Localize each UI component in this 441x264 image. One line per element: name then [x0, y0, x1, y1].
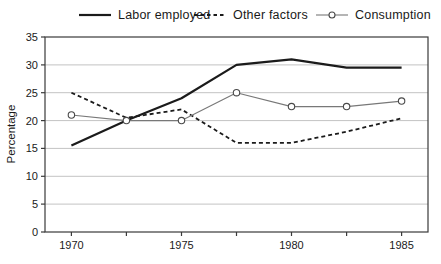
y-tick-label: 30: [26, 59, 38, 71]
y-tick-label: 0: [32, 226, 38, 238]
y-tick-label: 15: [26, 142, 38, 154]
series-line-consumption: [71, 93, 401, 121]
x-tick-label: 1970: [59, 239, 83, 251]
y-tick-label: 25: [26, 87, 38, 99]
data-point-marker-consumption: [288, 103, 294, 109]
series-line-other-factors: [71, 93, 401, 143]
data-point-marker-consumption: [178, 117, 184, 123]
data-point-marker-consumption: [398, 98, 404, 104]
data-point-marker-consumption: [123, 117, 129, 123]
x-tick-label: 1985: [389, 239, 413, 251]
y-tick-label: 35: [26, 31, 38, 43]
data-point-marker-consumption: [343, 103, 349, 109]
x-tick-label: 1980: [279, 239, 303, 251]
y-tick-label: 20: [26, 115, 38, 127]
data-point-marker-consumption: [68, 112, 74, 118]
series-line-labor-employed: [71, 59, 401, 145]
x-tick-label: 1975: [169, 239, 193, 251]
y-tick-label: 10: [26, 170, 38, 182]
plot-frame: [45, 37, 428, 232]
y-tick-label: 5: [32, 198, 38, 210]
line-chart-figure: Labor employed Other factors Consumption…: [0, 0, 441, 264]
chart-plot-area: 051015202530351970197519801985: [0, 0, 441, 264]
data-point-marker-consumption: [233, 90, 239, 96]
